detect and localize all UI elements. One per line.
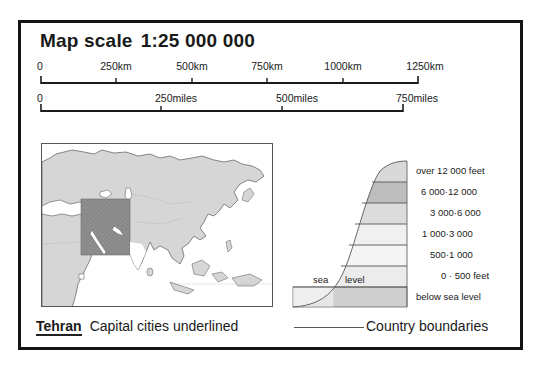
- elevation-label: below sea level: [416, 291, 481, 302]
- band-1000-3000: [288, 224, 413, 245]
- scale-bar-lines: [0, 0, 544, 130]
- band-3000-6000: [288, 203, 413, 224]
- country-boundaries-legend: Country boundaries: [294, 318, 488, 334]
- elevation-key-graphic: sea level: [288, 155, 413, 315]
- band-6000-12000: [288, 182, 413, 203]
- elevation-label: 6 000·12 000: [421, 186, 477, 197]
- elevation-label: 0 · 500 feet: [441, 270, 489, 281]
- elevation-label: 500·1 000: [430, 249, 473, 260]
- elevation-label: 3 000·6 000: [430, 207, 481, 218]
- capital-example-tehran: Tehran: [36, 318, 82, 336]
- capital-cities-legend: TehranCapital cities underlined: [36, 318, 238, 334]
- boundary-line-sample: [294, 327, 364, 328]
- highlighted-region: [81, 199, 130, 255]
- band-500-1000: [288, 245, 413, 266]
- asia-map-graphic: [42, 144, 273, 307]
- elevation-label: over 12 000 feet: [416, 165, 485, 176]
- sea-label: sea: [313, 274, 329, 285]
- elevation-label: 1 000·3 000: [422, 228, 473, 239]
- locator-map: [41, 143, 273, 307]
- capital-legend-text: Capital cities underlined: [90, 318, 239, 334]
- level-label: level: [345, 274, 365, 285]
- band-over-12000: [288, 155, 413, 182]
- boundary-legend-text: Country boundaries: [366, 318, 488, 334]
